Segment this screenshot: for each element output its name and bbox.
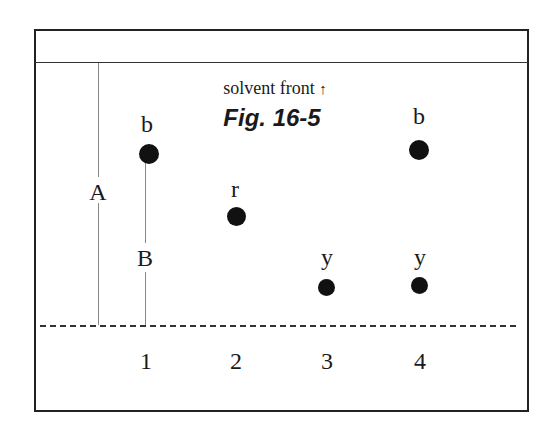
spot-lane3-yellow xyxy=(318,279,335,296)
distance-a-line-bottom xyxy=(98,203,99,325)
distance-a-label: A xyxy=(83,180,113,204)
distance-b-label: B xyxy=(130,246,160,270)
figure-title: Fig. 16-5 xyxy=(212,104,332,132)
lane-number-1: 1 xyxy=(131,349,161,373)
spot-label-lane4-b: b xyxy=(404,104,434,128)
spot-label-lane1-b: b xyxy=(132,112,162,136)
spot-lane1-blue xyxy=(139,144,159,164)
spot-label-lane4-y: y xyxy=(405,245,435,269)
origin-baseline xyxy=(40,325,516,327)
distance-a-line-top xyxy=(98,63,99,177)
lane-number-4: 4 xyxy=(405,349,435,373)
distance-b-line-bottom xyxy=(145,272,146,325)
spot-lane2-red xyxy=(227,207,246,226)
spot-label-lane2-r: r xyxy=(220,177,250,201)
up-arrow-icon: ↑ xyxy=(319,81,327,97)
solvent-front-line xyxy=(35,62,528,63)
solvent-front-caption: solvent front ↑ xyxy=(200,78,350,99)
lane-number-3: 3 xyxy=(312,349,342,373)
spot-lane4-yellow xyxy=(411,277,428,294)
lane-number-2: 2 xyxy=(221,349,251,373)
distance-b-line-top xyxy=(145,163,146,243)
spot-lane4-blue xyxy=(409,140,429,160)
spot-label-lane3-y: y xyxy=(312,245,342,269)
